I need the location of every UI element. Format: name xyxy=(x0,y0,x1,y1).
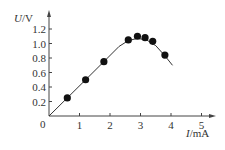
fitted-curve xyxy=(49,38,173,116)
x-tick-label: 2 xyxy=(107,119,113,131)
x-axis-label: I/mA xyxy=(185,127,209,139)
data-point xyxy=(125,36,132,43)
data-point xyxy=(64,94,71,101)
y-tick-label: 0.2 xyxy=(32,96,46,108)
data-point xyxy=(100,58,107,65)
origin-label: 0 xyxy=(40,118,46,130)
x-tick-label: 1 xyxy=(77,119,83,131)
y-tick-label: 1.0 xyxy=(32,38,46,50)
axes: 123450.20.40.60.81.01.2 xyxy=(32,10,216,131)
data-point xyxy=(82,76,89,83)
data-point xyxy=(161,52,168,59)
x-tick-label: 3 xyxy=(138,119,144,131)
x-tick-label: 4 xyxy=(168,119,174,131)
y-tick-label: 0.4 xyxy=(32,81,46,93)
y-tick-label: 0.8 xyxy=(32,52,46,64)
y-tick-label: 1.2 xyxy=(32,23,46,35)
data-points xyxy=(64,33,169,102)
x-axis-arrow-icon xyxy=(209,114,216,118)
data-point xyxy=(141,34,148,41)
data-point xyxy=(134,33,141,40)
y-axis-arrow-icon xyxy=(47,10,51,17)
u-i-chart: 123450.20.40.60.81.01.2 U/V I/mA 0 xyxy=(0,0,225,150)
y-axis-label: U/V xyxy=(14,12,33,24)
y-tick-label: 0.6 xyxy=(32,67,46,79)
data-point xyxy=(149,38,156,45)
